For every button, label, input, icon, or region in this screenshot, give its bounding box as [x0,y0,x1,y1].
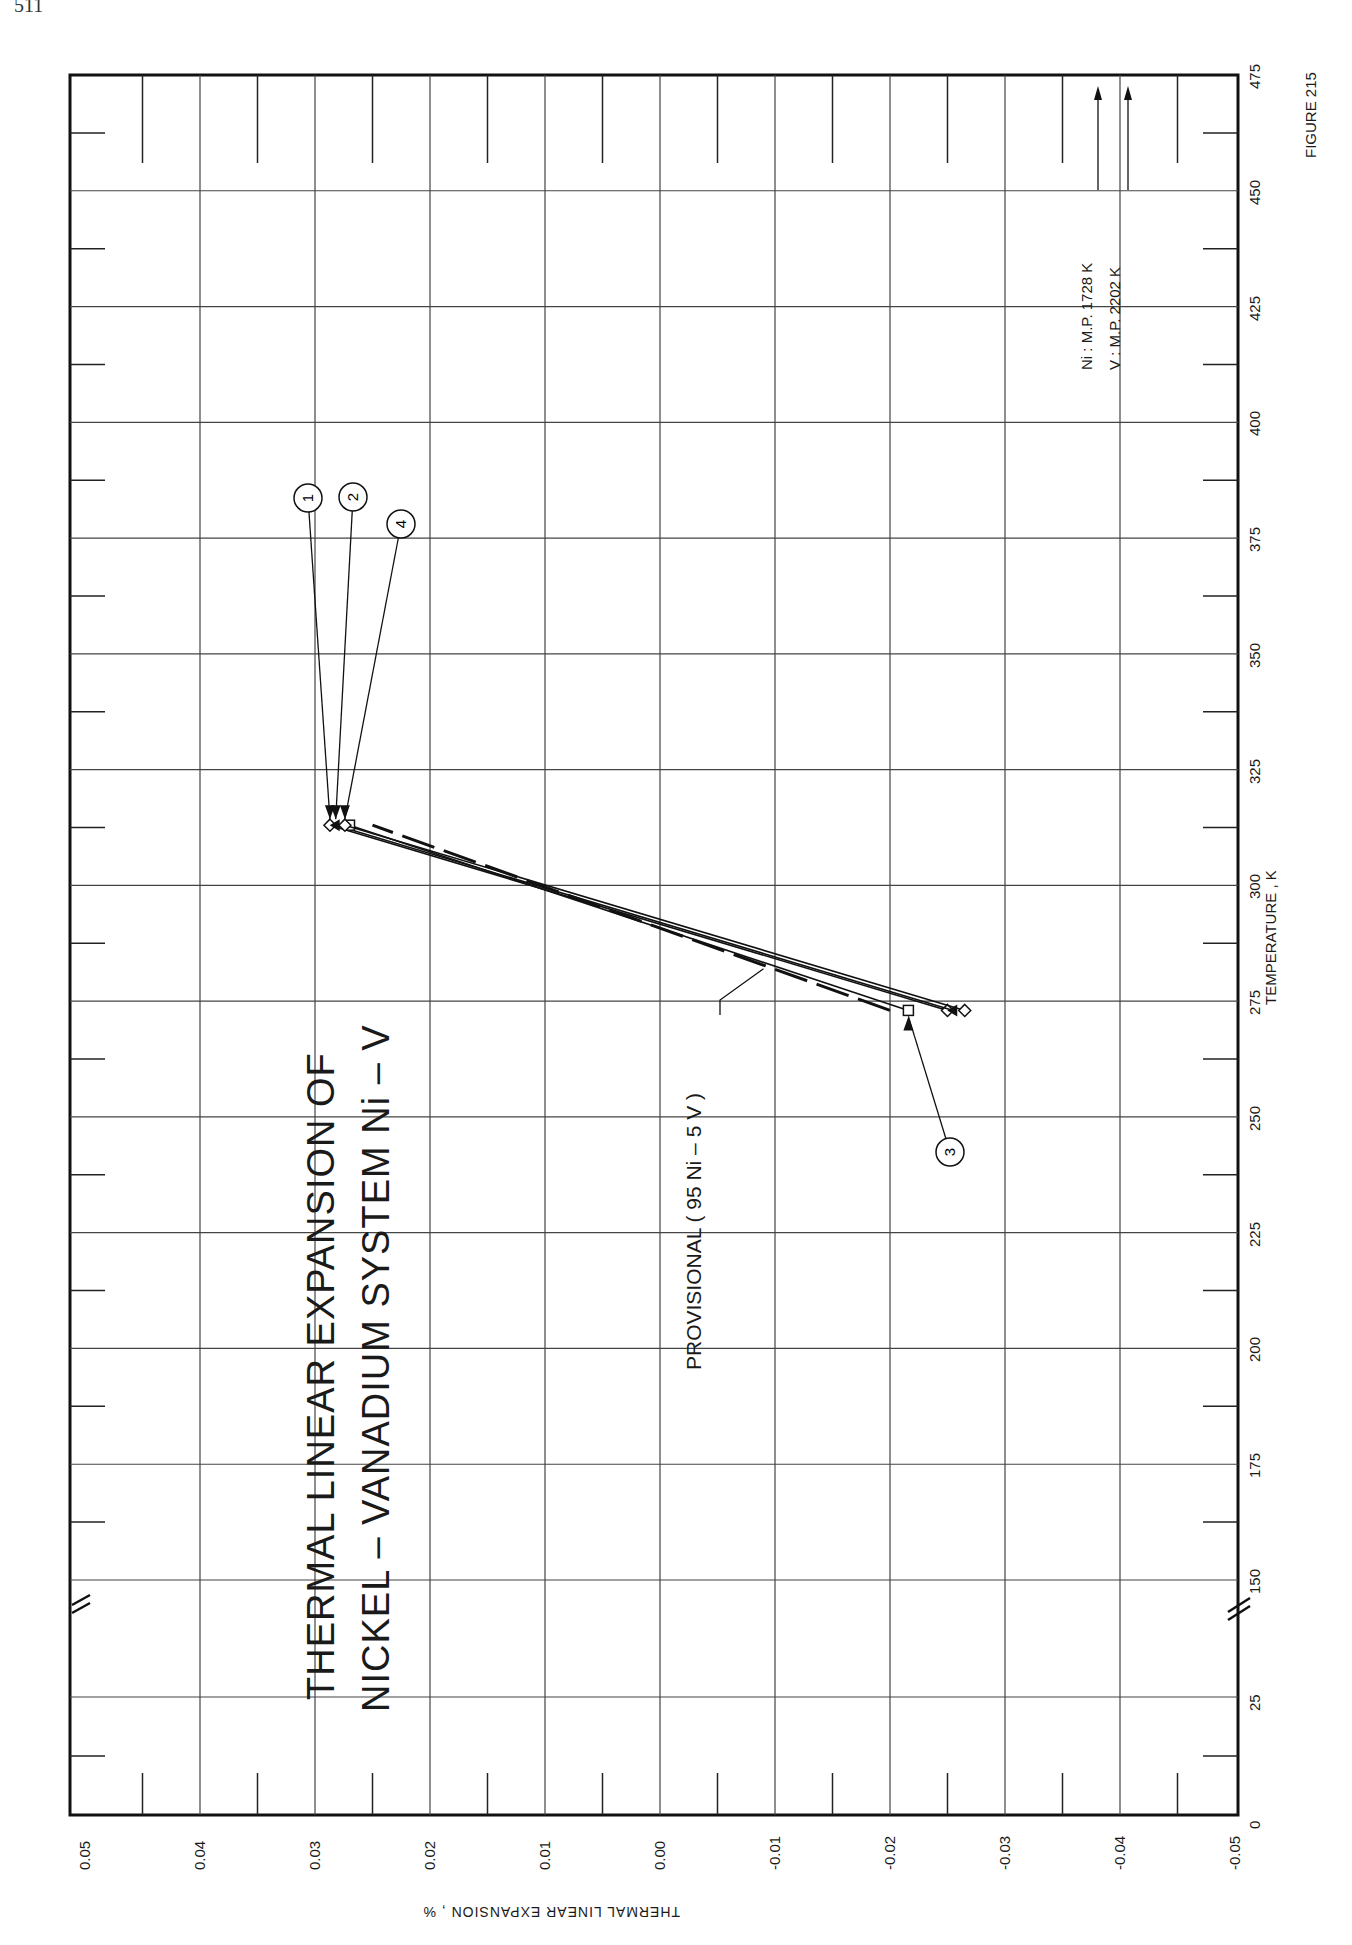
leader-line [345,524,401,819]
y-tick-label: 0.00 [651,1841,668,1870]
x-tick-label: 225 [1246,1222,1263,1247]
y-tick-label: 0.05 [76,1841,93,1870]
x-tick-label: 300 [1246,874,1263,899]
x-tick-label: 250 [1246,1106,1263,1131]
arrow-up-icon [1124,86,1132,100]
x-tick-label: 150 [1246,1569,1263,1594]
leader-line [308,498,330,819]
curve-label-1: 1 [299,494,316,502]
x-axis-label: TEMPERATURE , K [1262,870,1279,1005]
leader-line [908,1016,950,1152]
series-line-1 [330,825,948,1010]
arrow-head-icon [903,1016,913,1030]
chart-title-line2: NICKEL – VANADIUM SYSTEM Ni – V [355,1024,398,1712]
y-tick-label: 0.04 [191,1841,208,1870]
x-tick-label: 475 [1246,64,1263,89]
x-tick-label: 175 [1246,1453,1263,1478]
x-tick-label: 450 [1246,180,1263,205]
series-line-4 [345,825,965,1010]
x-tick-label: 275 [1246,990,1263,1015]
y-axis-label: THERMAL LINEAR EXPANSION , % [423,1904,681,1920]
plot-frame [70,75,1238,1815]
y-tick-label: -0.03 [996,1836,1013,1870]
melting-point-v: V : M.P. 2202 K [1106,267,1123,370]
y-tick-label: -0.04 [1111,1836,1128,1870]
y-tick-label: 0.02 [421,1841,438,1870]
provisional-label: PROVISIONAL ( 95 Ni – 5 V ) [682,1093,706,1370]
leader-line [336,497,353,819]
x-tick-label: 375 [1246,527,1263,552]
axis-break-marks [72,1595,1250,1620]
x-tick-label: 400 [1246,411,1263,436]
y-tick-label: 0.03 [306,1841,323,1870]
x-tick-label: 0 [1246,1821,1263,1829]
arrow-head-icon [340,805,350,819]
y-tick-label: -0.05 [1226,1836,1243,1870]
series-line-2 [336,825,954,1010]
melting-point-ni: Ni : M.P. 1728 K [1078,263,1095,370]
y-tick-label: 0.01 [536,1841,553,1870]
arrow-up-icon [1094,86,1102,100]
curve-label-4: 4 [392,520,409,528]
data-point-square [903,1005,913,1015]
curve-label-3: 3 [941,1148,958,1156]
x-tick-label: 325 [1246,759,1263,784]
series-line-provisional [373,825,891,1010]
curve-label-2: 2 [344,493,361,501]
x-tick-label: 25 [1246,1694,1263,1711]
x-tick-label: 200 [1246,1337,1263,1362]
chart-title-line1: THERMAL LINEAR EXPANSION OF [300,1052,343,1700]
chart-plot: 1243 [0,0,1352,1945]
provisional-leader [720,969,764,1015]
x-tick-label: 350 [1246,643,1263,668]
y-tick-label: -0.02 [881,1836,898,1870]
figure-label: FIGURE 215 [1302,72,1319,158]
y-tick-label: -0.01 [766,1836,783,1870]
data-point-diamond [959,1004,971,1016]
x-tick-label: 425 [1246,296,1263,321]
